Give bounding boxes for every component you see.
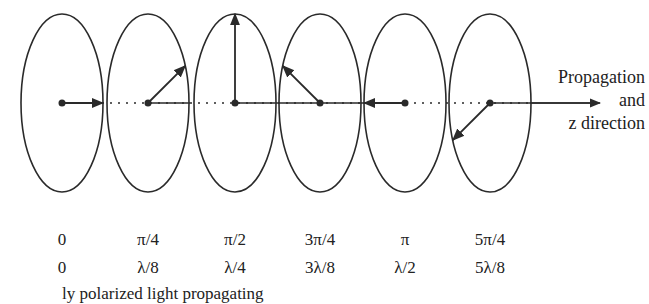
phase-label: 0: [58, 230, 67, 250]
center-dot: [145, 100, 152, 107]
distance-label: λ/8: [137, 258, 158, 278]
center-dot: [317, 100, 324, 107]
distance-label: 3λ/8: [305, 258, 335, 278]
distance-label: 0: [58, 258, 67, 278]
field-vector-arrow-up-right: [148, 66, 185, 103]
center-dot: [402, 100, 409, 107]
center-dot: [487, 100, 494, 107]
propagation-label: Propagation and z direction: [545, 66, 645, 135]
phase-label: π: [401, 230, 410, 250]
phase-label: π/4: [137, 230, 159, 250]
center-dot: [232, 100, 239, 107]
phase-label: 5π/4: [475, 230, 505, 250]
field-vector-arrow-down-left: [453, 103, 490, 140]
distance-label: 5λ/8: [475, 258, 505, 278]
phase-label: π/2: [224, 230, 246, 250]
propagation-label-line2: and: [545, 89, 645, 112]
distance-label: λ/2: [394, 258, 415, 278]
propagation-label-line1: Propagation: [545, 66, 645, 89]
center-dot: [59, 100, 66, 107]
field-vector-arrow-up-left: [283, 66, 320, 103]
caption-clipped: ly polarized light propagating: [62, 284, 264, 304]
distance-label: λ/4: [224, 258, 245, 278]
phase-label: 3π/4: [305, 230, 335, 250]
propagation-label-line3: z direction: [545, 112, 645, 135]
